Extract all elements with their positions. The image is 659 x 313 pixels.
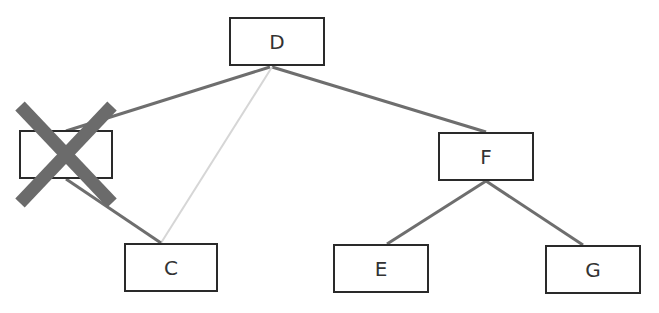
node-f-label: F bbox=[480, 145, 492, 169]
edge-d-b bbox=[66, 67, 270, 131]
node-f: F bbox=[438, 132, 534, 181]
edge-b-c bbox=[66, 179, 161, 243]
node-e: E bbox=[333, 244, 429, 293]
node-c: C bbox=[124, 243, 218, 292]
edge-f-g bbox=[486, 181, 583, 245]
edge-d-f bbox=[272, 67, 486, 132]
node-g: G bbox=[545, 245, 641, 294]
edge-f-e bbox=[387, 181, 486, 244]
node-g-label: G bbox=[585, 258, 601, 282]
node-c-label: C bbox=[164, 256, 178, 280]
node-b-deleted bbox=[19, 130, 113, 179]
node-d: D bbox=[229, 17, 325, 66]
node-e-label: E bbox=[375, 257, 388, 281]
edge-d-c bbox=[161, 67, 272, 243]
node-d-label: D bbox=[269, 30, 284, 54]
